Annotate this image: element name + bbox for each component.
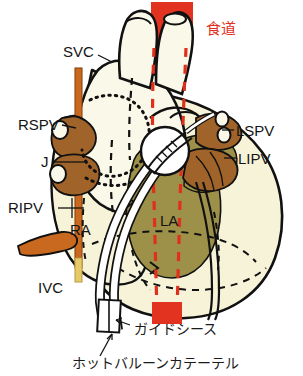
label-guide-sheath: ガイドシース [134, 321, 217, 337]
label-lipv: LIPV [238, 150, 271, 167]
left-inferior-pulmonary-vein-vessel [183, 149, 238, 192]
right-inferior-pulmonary-vein-vessel [50, 154, 100, 195]
label-esophagus: 食道 [206, 20, 236, 38]
diagram-canvas: SVC RSPV J RIPV RA IVC LA LSPV LIPV 食道 ガ… [0, 0, 303, 376]
label-ra: RA [70, 221, 91, 238]
label-ivc: IVC [38, 279, 63, 296]
label-hot-balloon-catheter: ホットバルーンカテーテル [72, 355, 239, 371]
label-svc: SVC [63, 43, 94, 60]
great-vessels [119, 11, 192, 94]
label-ripv: RIPV [8, 199, 43, 216]
label-la: LA [160, 212, 178, 229]
label-j: J [41, 153, 49, 170]
label-lspv: LSPV [236, 122, 274, 139]
label-rspv: RSPV [18, 116, 59, 133]
